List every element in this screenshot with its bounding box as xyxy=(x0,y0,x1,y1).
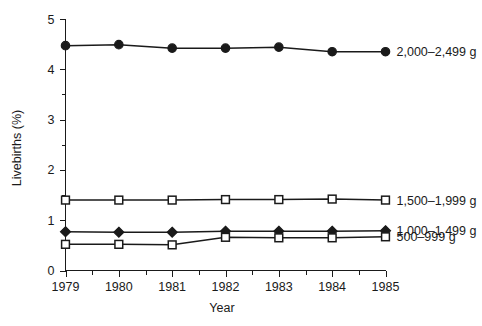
data-point-marker xyxy=(382,196,390,204)
data-point-marker xyxy=(381,48,389,56)
data-point-marker xyxy=(221,44,229,52)
data-point-marker xyxy=(275,234,283,242)
y-axis-title: Livebirths (%) xyxy=(10,110,24,186)
x-tick-label: 1982 xyxy=(212,280,240,294)
data-point-marker xyxy=(62,196,70,204)
x-tick-label: 1985 xyxy=(372,280,400,294)
data-point-marker xyxy=(382,233,390,241)
y-tick-label: 2 xyxy=(48,163,55,177)
x-tick-label: 1981 xyxy=(158,280,186,294)
y-tick-label: 1 xyxy=(48,214,55,228)
data-point-marker xyxy=(168,196,176,204)
y-tick-label: 3 xyxy=(48,113,55,127)
x-tick-label: 1980 xyxy=(105,280,133,294)
y-tick-label: 0 xyxy=(48,264,55,278)
y-tick-label: 4 xyxy=(48,63,55,77)
data-point-marker xyxy=(115,40,123,48)
data-point-marker xyxy=(222,196,230,204)
livebirths-by-birthweight-line-chart: Livebirths (%) Year 012345 1979198019811… xyxy=(0,0,482,326)
series-legend-label: 500–999 g xyxy=(397,230,456,244)
data-point-marker xyxy=(222,233,230,241)
data-point-marker xyxy=(115,196,123,204)
series-legend-label: 1,500–1,999 g xyxy=(397,194,477,208)
data-point-marker xyxy=(275,196,283,204)
data-point-marker xyxy=(168,241,176,249)
x-axis-title: Year xyxy=(209,301,234,315)
data-point-marker xyxy=(168,44,176,52)
data-point-marker xyxy=(328,195,336,203)
series-legend-label: 2,000–2,499 g xyxy=(397,45,477,59)
data-point-marker xyxy=(62,240,70,248)
data-point-marker xyxy=(61,41,69,49)
chart-figure: Livebirths (%) Year 012345 1979198019811… xyxy=(0,0,482,326)
data-point-marker xyxy=(328,48,336,56)
x-tick-label: 1983 xyxy=(265,280,293,294)
x-tick-label: 1984 xyxy=(318,280,346,294)
x-tick-label: 1979 xyxy=(52,280,80,294)
data-point-marker xyxy=(275,43,283,51)
data-point-marker xyxy=(115,240,123,248)
y-tick-label: 5 xyxy=(48,13,55,27)
data-point-marker xyxy=(328,234,336,242)
